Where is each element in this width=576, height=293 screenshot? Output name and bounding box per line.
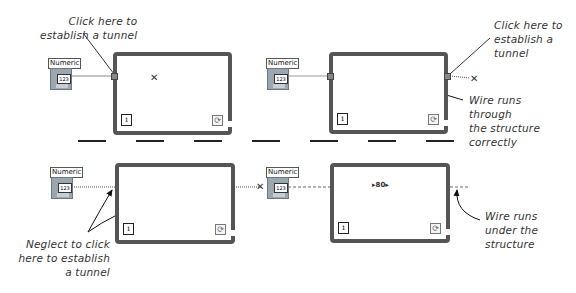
separator-dash <box>252 140 280 142</box>
while-loop-frame[interactable]: i ⟳ <box>113 52 232 135</box>
annotation-wire-under: Wire runs under the structure <box>485 209 538 251</box>
numeric-control[interactable]: 123 <box>267 68 289 90</box>
tunnel-right[interactable] <box>444 73 451 80</box>
iteration-terminal-icon: i <box>123 223 134 235</box>
numeric-datatype <box>56 84 68 88</box>
tunnel-left[interactable] <box>111 73 118 80</box>
numeric-control[interactable]: 123 <box>51 177 73 199</box>
conditional-terminal-icon[interactable]: ⟳ <box>212 115 223 126</box>
broken-wire-icon: ✕ <box>150 72 158 83</box>
iteration-terminal-icon: i <box>121 114 132 126</box>
numeric-display: 123 <box>274 183 288 193</box>
separator-dash <box>136 140 164 142</box>
conditional-terminal-icon[interactable]: ⟳ <box>428 114 439 125</box>
conditional-terminal-icon[interactable]: ⟳ <box>430 223 441 234</box>
annotation-neglect-tunnel: Neglect to click here to establish a tun… <box>10 237 110 279</box>
while-loop-frame[interactable]: i ⟳ <box>115 163 235 244</box>
while-loop-frame[interactable]: ▸80▸ i ⟳ <box>330 163 450 243</box>
numeric-indicator-icon: ▸80▸ <box>372 181 389 189</box>
numeric-display: 123 <box>274 74 288 84</box>
broken-wire-icon: ✕ <box>256 181 264 192</box>
numeric-datatype <box>273 193 285 197</box>
numeric-display: 123 <box>58 183 72 193</box>
separator-dash <box>194 140 222 142</box>
while-loop-frame[interactable]: i ⟳ <box>329 52 448 134</box>
tunnel-left[interactable] <box>327 73 334 80</box>
iteration-terminal-icon: i <box>338 222 349 234</box>
conditional-terminal-icon[interactable]: ⟳ <box>215 224 226 235</box>
separator-dash <box>78 140 106 142</box>
numeric-datatype <box>273 84 285 88</box>
annotation-click-tunnel: Click here to establish a tunnel <box>494 18 563 60</box>
numeric-datatype <box>57 193 69 197</box>
separator-dash <box>310 140 338 142</box>
separator-dash <box>426 140 454 142</box>
separator-dash <box>368 140 396 142</box>
numeric-control[interactable]: 123 <box>267 177 289 199</box>
numeric-display: 123 <box>57 74 71 84</box>
broken-wire-icon: ✕ <box>470 73 478 84</box>
annotation-wire-through: Wire runs through the structure correctl… <box>469 93 540 149</box>
iteration-terminal-icon: i <box>337 113 348 125</box>
numeric-control[interactable]: 123 <box>50 68 72 90</box>
annotation-click-tunnel: Click here to establish a tunnel <box>40 14 137 42</box>
